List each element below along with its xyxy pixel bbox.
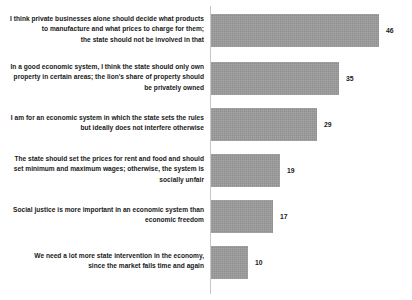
bar-label-line: We need a lot more state intervention in… xyxy=(6,251,204,261)
bar-category-label: In a good economic system, I think the s… xyxy=(6,62,204,93)
bar-category-label: The state should set the prices for rent… xyxy=(6,154,204,185)
bar-label-line: to manufacture and what prices to charge… xyxy=(6,24,204,34)
bar-rect xyxy=(211,62,339,95)
bar-rect xyxy=(211,246,248,279)
bar-label-line: be privately owned xyxy=(6,83,204,93)
bar-label-line: I think private businesses alone should … xyxy=(6,14,204,24)
bar-category-label: I am for an economic system in which the… xyxy=(6,113,204,134)
bar-value-label: 19 xyxy=(287,167,295,175)
bar-label-line: In a good economic system, I think the s… xyxy=(6,62,204,72)
bar-category-label: I think private businesses alone should … xyxy=(6,14,204,45)
bar-label-line: the state should not be involved in that xyxy=(6,35,204,45)
horizontal-bar-chart: I think private businesses alone should … xyxy=(0,0,412,300)
bar-value-label: 46 xyxy=(386,27,394,35)
bar-label-line: economic freedom xyxy=(6,215,204,225)
bar-label-line: Social justice is more important in an e… xyxy=(6,205,204,215)
bar-value-label: 35 xyxy=(346,75,354,83)
bar-label-line: I am for an economic system in which the… xyxy=(6,113,204,123)
bar-label-line: since the market fails time and again xyxy=(6,261,204,271)
bar-category-label: Social justice is more important in an e… xyxy=(6,205,204,226)
bar-rect xyxy=(211,154,280,187)
bar-value-label: 10 xyxy=(255,259,263,267)
bar-value-label: 17 xyxy=(280,213,288,221)
bar-category-label: We need a lot more state intervention in… xyxy=(6,251,204,272)
bar-rect xyxy=(211,14,379,47)
bar-rect xyxy=(211,108,317,141)
bar-label-line: property in certain areas; the lion's sh… xyxy=(6,72,204,82)
bar-rect xyxy=(211,200,273,233)
bar-value-label: 29 xyxy=(324,121,332,129)
bar-label-line: The state should set the prices for rent… xyxy=(6,154,204,164)
bar-label-line: socially unfair xyxy=(6,175,204,185)
bar-label-line: but ideally does not interfere otherwise xyxy=(6,123,204,133)
bar-label-line: set minimum and maximum wages; otherwise… xyxy=(6,164,204,174)
